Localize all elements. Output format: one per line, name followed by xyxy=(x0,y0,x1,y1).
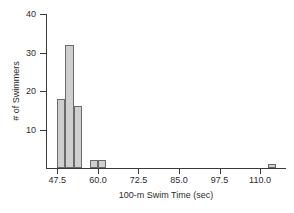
y-tick-label: 30 xyxy=(12,48,36,58)
y-tick-label: 40 xyxy=(12,9,36,19)
y-tick-label: 20 xyxy=(12,86,36,96)
y-tick-label: 10 xyxy=(12,125,36,135)
histogram-chart: # of Swimmers 100-m Swim Time (sec) 1020… xyxy=(0,0,294,213)
x-tick-label: 60.0 xyxy=(78,175,118,185)
x-axis-title: 100-m Swim Time (sec) xyxy=(46,190,286,200)
x-tick-label: 97.5 xyxy=(200,175,240,185)
axis-labels-layer: # of Swimmers 100-m Swim Time (sec) 1020… xyxy=(0,0,294,213)
x-tick-label: 85.0 xyxy=(159,175,199,185)
x-tick-label: 47.5 xyxy=(37,175,77,185)
x-tick-label: 72.5 xyxy=(118,175,158,185)
x-tick-label: 110.0 xyxy=(240,175,280,185)
